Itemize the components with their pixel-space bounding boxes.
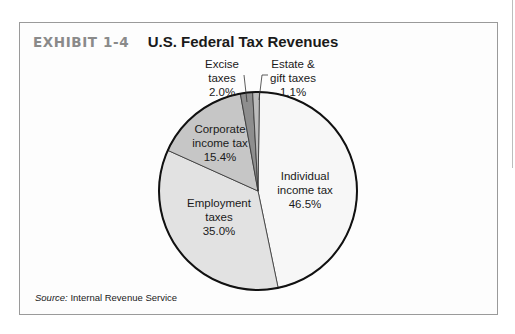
label-estate: Estate & gift taxes 1.1% <box>270 58 316 98</box>
label-employment-value: 35.0% <box>203 225 236 237</box>
label-estate-value: 1.1% <box>280 86 306 98</box>
label-individual-value: 46.5% <box>289 198 322 210</box>
label-excise-value: 2.0% <box>209 86 235 98</box>
label-employment-line1: Employment <box>187 197 252 209</box>
label-employment-line2: taxes <box>205 211 233 223</box>
label-corporate-line2: income tax <box>192 137 248 149</box>
label-corporate-value: 15.4% <box>204 151 237 163</box>
label-excise-line1: Excise <box>205 58 239 70</box>
label-individual-line1: Individual <box>281 170 330 182</box>
pie-chart: Excise taxes 2.0% Estate & gift taxes 1.… <box>0 0 515 334</box>
label-excise: Excise taxes 2.0% <box>205 58 239 98</box>
label-corporate-line1: Corporate <box>194 123 245 135</box>
label-estate-line2: gift taxes <box>270 72 316 84</box>
label-excise-line2: taxes <box>208 72 236 84</box>
label-estate-line1: Estate & <box>271 58 315 70</box>
label-individual-line2: income tax <box>277 184 333 196</box>
